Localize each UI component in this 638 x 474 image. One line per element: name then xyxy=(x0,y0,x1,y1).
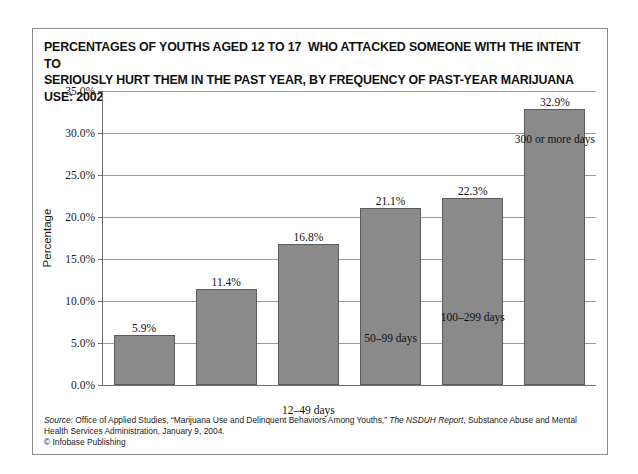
bar-value-label: 11.4% xyxy=(212,276,241,288)
gridline xyxy=(103,175,596,176)
x-axis-tick-label: 300 or more days xyxy=(507,133,603,147)
source-text-part-1: Office of Applied Studies, “Marijuana Us… xyxy=(73,415,389,425)
y-axis-tick xyxy=(98,343,103,344)
y-axis-title: Percentage xyxy=(39,91,55,385)
bar[interactable]: 5.9%No past-year use xyxy=(114,335,175,385)
gridline xyxy=(103,259,596,260)
chart-title-line-1: PERCENTAGES OF YOUTHS AGED 12 TO 17 WHO … xyxy=(44,40,584,71)
y-axis-tick-label: 0.0% xyxy=(71,379,95,391)
y-axis-tick-label: 20.0% xyxy=(65,211,95,223)
copyright-notice: © Infobase Publishing xyxy=(44,437,592,448)
x-axis-tick-label: 100–299 days xyxy=(425,311,521,325)
bar[interactable]: 22.3%100–299 days xyxy=(442,198,503,385)
y-axis-tick xyxy=(98,133,103,134)
chart-figure-frame: PERCENTAGES OF YOUTHS AGED 12 TO 17 WHO … xyxy=(32,28,608,455)
bar[interactable]: 21.1%50–99 days xyxy=(360,208,421,385)
y-axis-tick xyxy=(98,385,103,386)
bar[interactable]: 32.9%300 or more days xyxy=(524,109,585,385)
y-axis-tick xyxy=(98,175,103,176)
y-axis-tick xyxy=(98,301,103,302)
bar-value-label: 16.8% xyxy=(294,231,324,243)
gridline xyxy=(103,91,596,92)
y-axis-tick-label: 10.0% xyxy=(65,295,95,307)
y-axis-tick-label: 15.0% xyxy=(65,253,95,265)
y-axis-tick xyxy=(98,259,103,260)
y-axis-tick-label: 30.0% xyxy=(65,127,95,139)
source-label: Source: xyxy=(44,415,73,425)
source-citation: Source: Office of Applied Studies, “Mari… xyxy=(44,415,592,436)
x-axis-tick-label: 50–99 days xyxy=(343,332,439,346)
y-axis-tick-label: 5.0% xyxy=(71,337,95,349)
y-axis-tick xyxy=(98,217,103,218)
gridline xyxy=(103,301,596,302)
gridline xyxy=(103,217,596,218)
bar-value-label: 21.1% xyxy=(376,195,406,207)
bar-value-label: 5.9% xyxy=(132,322,156,334)
y-axis-tick-label: 35.0% xyxy=(65,85,95,97)
bar-value-label: 32.9% xyxy=(540,96,570,108)
bar[interactable]: 16.8%12–49 days xyxy=(278,244,339,385)
source-report-title: The NSDUH Report xyxy=(389,415,463,425)
plot-area: 0.0%5.0%10.0%15.0%20.0%25.0%30.0%35.0%5.… xyxy=(102,91,596,386)
source-note: Source: Office of Applied Studies, “Mari… xyxy=(44,415,592,448)
bar[interactable]: 11.4%1–11 days xyxy=(196,289,257,385)
bar-value-label: 22.3% xyxy=(458,185,488,197)
y-axis-tick xyxy=(98,91,103,92)
y-axis-tick-label: 25.0% xyxy=(65,169,95,181)
